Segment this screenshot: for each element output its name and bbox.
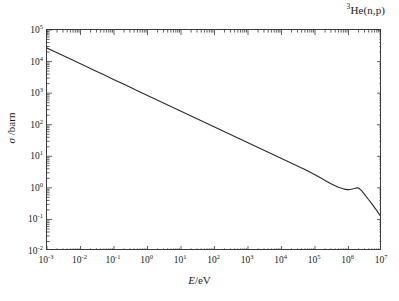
x-tick-exponent: 0	[150, 253, 153, 260]
x-tick-label: 10-1	[106, 254, 121, 266]
x-tick-label: 101	[174, 254, 187, 266]
y-axis-title: σ /barn	[5, 93, 17, 163]
x-tick-mantissa: 10	[375, 255, 385, 265]
x-tick-label: 10-2	[72, 254, 87, 266]
x-tick-exponent: 1	[183, 253, 186, 260]
x-tick-label: 107	[375, 254, 388, 266]
x-tick-exponent: 2	[217, 253, 220, 260]
x-axis-title-unit: /eV	[195, 274, 211, 286]
x-tick-label: 102	[207, 254, 220, 266]
x-tick-label: 104	[274, 254, 287, 266]
x-tick-mantissa: 10	[39, 255, 49, 265]
x-tick-label: 10-3	[39, 254, 54, 266]
x-tick-exponent: 4	[284, 253, 287, 260]
x-tick-exponent: 7	[384, 253, 387, 260]
x-tick-exponent: -1	[115, 253, 120, 260]
x-tick-mantissa: 10	[140, 255, 150, 265]
x-tick-mantissa: 10	[241, 255, 251, 265]
x-tick-mantissa: 10	[106, 255, 116, 265]
y-axis-title-unit: /barn	[5, 113, 17, 138]
x-tick-label: 103	[241, 254, 254, 266]
x-axis-title: E/eV	[0, 274, 399, 286]
x-axis-tick-labels: 10-310-210-1100101102103104105106107	[0, 0, 399, 301]
x-tick-exponent: 6	[351, 253, 354, 260]
x-tick-label: 100	[140, 254, 153, 266]
x-tick-exponent: -2	[82, 253, 87, 260]
x-tick-mantissa: 10	[341, 255, 351, 265]
x-tick-mantissa: 10	[72, 255, 82, 265]
figure-root: 3He(n,p) 10510410310210110010-110-2 10-3…	[0, 0, 399, 301]
x-tick-exponent: -3	[48, 253, 53, 260]
x-tick-mantissa: 10	[174, 255, 184, 265]
x-tick-exponent: 5	[317, 253, 320, 260]
x-tick-label: 105	[308, 254, 321, 266]
x-tick-mantissa: 10	[207, 255, 217, 265]
x-tick-mantissa: 10	[274, 255, 284, 265]
x-axis-title-symbol: E	[188, 274, 195, 286]
y-axis-title-symbol: σ	[5, 138, 17, 143]
x-tick-mantissa: 10	[308, 255, 318, 265]
x-tick-label: 106	[341, 254, 354, 266]
x-tick-exponent: 3	[250, 253, 253, 260]
